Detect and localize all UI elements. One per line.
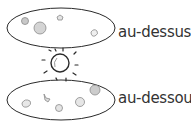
object-icon (22, 100, 31, 107)
above-below-diagram (0, 0, 191, 132)
sun-icon (42, 48, 78, 81)
object-icon (56, 105, 63, 112)
object-icon (22, 18, 29, 25)
object-icon (44, 94, 50, 102)
label-below: au-dessous (118, 91, 191, 106)
object-icon (34, 22, 46, 34)
object-icon (91, 30, 98, 36)
object-icon (76, 98, 85, 107)
object-icon (90, 85, 100, 95)
region-above (7, 8, 115, 48)
label-above: au-dessus (118, 25, 191, 40)
region-below (7, 80, 115, 120)
object-icon (57, 15, 63, 20)
ellipse-above (7, 8, 115, 48)
sketch-objects-above (22, 15, 98, 36)
sketch-objects-below (22, 85, 100, 112)
ellipse-below (7, 80, 115, 120)
